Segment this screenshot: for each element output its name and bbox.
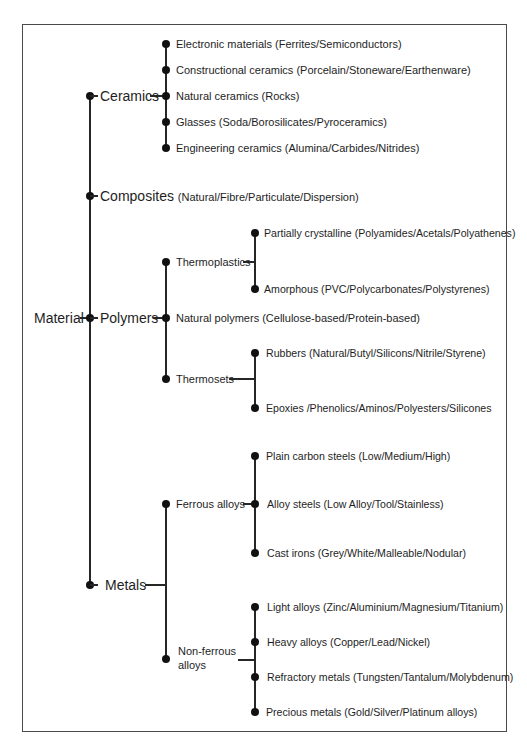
thermoplastics-dot <box>162 258 170 266</box>
ceramics-item-dot <box>162 118 170 126</box>
ceramics-item-constructional: Constructional ceramics (Porcelain/Stone… <box>176 64 471 76</box>
diagram-frame <box>22 24 507 732</box>
ceramics-item-glasses: Glasses (Soda/Borosilicates/Pyroceramics… <box>176 116 387 128</box>
ferrous-alloys-dot <box>162 500 170 508</box>
thermosets-item-rubbers: Rubbers (Natural/Butyl/Silicons/Nitrile/… <box>266 347 486 359</box>
category-polymers: Polymers <box>100 310 158 326</box>
non-ferrous-item-precious-metals: Precious metals (Gold/Silver/Platinum al… <box>266 706 477 718</box>
thermosets-item-dot <box>251 349 259 357</box>
non-ferrous-line2: alloys <box>178 659 206 671</box>
thermosets-item-epoxies: Epoxies /Phenolics/Aminos/Polyesters/Sil… <box>266 402 492 414</box>
ceramics-item-electronic: Electronic materials (Ferrites/Semicondu… <box>176 38 402 50</box>
thermosets-item-dot <box>251 404 259 412</box>
thermosets-dot <box>162 375 170 383</box>
thermosets-connector <box>229 378 255 380</box>
ceramics-item-natural: Natural ceramics (Rocks) <box>176 90 299 102</box>
ferrous-item-cast-irons: Cast irons (Grey/White/Malleable/Nodular… <box>267 547 466 559</box>
metals-branch-line <box>165 504 167 659</box>
non-ferrous-item-heavy-alloys: Heavy alloys (Copper/Lead/Nickel) <box>267 636 430 648</box>
ceramics-item-dot <box>162 66 170 74</box>
category-metals: Metals <box>105 577 146 593</box>
thermoplastics-item-dot <box>251 229 259 237</box>
composites-label: Composites <box>100 188 174 204</box>
non-ferrous-branch-line <box>254 607 256 712</box>
subcategory-ferrous-alloys: Ferrous alloys <box>176 498 245 510</box>
ceramics-item-dot <box>162 92 170 100</box>
root-label-material: Material <box>34 310 84 326</box>
metals-stub <box>90 584 98 586</box>
subcategory-natural-polymers: Natural polymers (Cellulose-based/Protei… <box>176 312 420 324</box>
non-ferrous-item-dot <box>251 638 259 646</box>
non-ferrous-line1: Non-ferrous <box>178 645 236 657</box>
non-ferrous-alloys-dot <box>162 655 170 663</box>
subcategory-thermoplastics: Thermoplastics <box>176 256 251 268</box>
composites-detail: (Natural/Fibre/Particulate/Dispersion) <box>178 191 359 203</box>
subcategory-non-ferrous-alloys: Non-ferrous alloys <box>178 644 248 672</box>
non-ferrous-item-refractory-metals: Refractory metals (Tungsten/Tantalum/Mol… <box>267 671 513 683</box>
ferrous-item-dot <box>251 500 259 508</box>
ferrous-item-plain-carbon-steels: Plain carbon steels (Low/Medium/High) <box>266 450 450 462</box>
subcategory-thermosets: Thermosets <box>176 373 234 385</box>
thermoplastics-branch-line <box>254 233 256 289</box>
metals-connector <box>145 584 166 586</box>
non-ferrous-item-light-alloys: Light alloys (Zinc/Aluminium/Magnesium/T… <box>267 601 503 613</box>
ceramics-item-dot <box>162 40 170 48</box>
ferrous-item-alloy-steels: Alloy steels (Low Alloy/Tool/Stainless) <box>267 498 444 510</box>
non-ferrous-item-dot <box>251 708 259 716</box>
composites-stub <box>90 195 98 197</box>
ferrous-item-dot <box>251 452 259 460</box>
thermoplastics-item-partially-crystalline: Partially crystalline (Polyamides/Acetal… <box>264 227 515 239</box>
non-ferrous-item-dot <box>251 603 259 611</box>
ceramics-item-engineering: Engineering ceramics (Alumina/Carbides/N… <box>176 142 419 154</box>
category-composites: Composites (Natural/Fibre/Particulate/Di… <box>100 188 359 204</box>
thermoplastics-item-dot <box>251 285 259 293</box>
main-spine <box>89 96 91 585</box>
polymers-stub <box>90 317 98 319</box>
non-ferrous-connector <box>238 659 255 661</box>
thermoplastics-item-amorphous: Amorphous (PVC/Polycarbonates/Polystyren… <box>264 283 490 295</box>
ceramics-stub <box>90 95 98 97</box>
ceramics-item-dot <box>162 144 170 152</box>
ferrous-item-dot <box>251 549 259 557</box>
natural-polymers-dot <box>162 314 170 322</box>
non-ferrous-item-dot <box>251 673 259 681</box>
thermosets-branch-line <box>254 353 256 408</box>
